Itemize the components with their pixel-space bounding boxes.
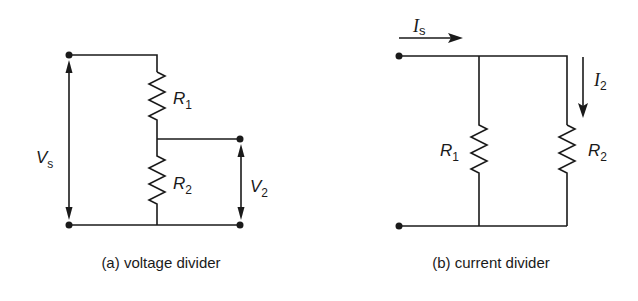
resistor-r2-a <box>149 139 165 225</box>
vs-double-arrow-icon <box>66 60 73 220</box>
v2-double-arrow-icon <box>238 144 245 220</box>
i2-arrow-icon <box>578 57 588 118</box>
terminal-bottom-left-a <box>66 222 73 229</box>
r2-label-b: R2 <box>588 141 607 164</box>
r1-label-b: R1 <box>440 141 459 164</box>
r1-label-a: R1 <box>173 89 192 112</box>
circuit-diagrams: Vs V2 R1 R2 (a) voltage divider Is I2 R <box>0 0 638 301</box>
terminal-mid-right-a <box>237 136 244 143</box>
current-divider-circuit: Is I2 R1 R2 (b) current divider <box>396 16 608 271</box>
terminal-bottom-right-a <box>237 222 244 229</box>
terminal-bottom-b <box>396 223 403 230</box>
terminal-top-left-a <box>66 52 73 59</box>
voltage-divider-circuit: Vs V2 R1 R2 (a) voltage divider <box>36 52 268 272</box>
top-wire-a <box>69 55 157 72</box>
terminal-top-b <box>396 53 403 60</box>
caption-voltage-divider: (a) voltage divider <box>101 254 220 271</box>
is-arrow-icon <box>399 33 463 43</box>
resistor-r1-a <box>149 72 165 139</box>
r2-label-a: R2 <box>173 174 192 197</box>
is-label: Is <box>412 16 426 38</box>
vs-label: Vs <box>36 148 53 171</box>
resistor-r1-b <box>471 56 487 226</box>
v2-label: V2 <box>250 177 268 200</box>
top-wire-b <box>399 56 567 125</box>
caption-current-divider: (b) current divider <box>432 254 550 271</box>
resistor-r2-b <box>559 125 575 226</box>
i2-label: I2 <box>593 70 607 93</box>
